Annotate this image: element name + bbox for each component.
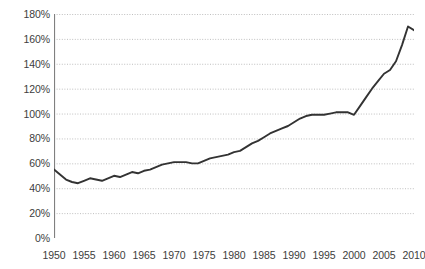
x-axis-label-1980: 1980 (223, 249, 246, 261)
x-axis-label-1960: 1960 (103, 249, 126, 261)
x-axis-label-1985: 1985 (253, 249, 276, 261)
x-axis-label-1990: 1990 (283, 249, 306, 261)
x-axis-label-2010: 2010 (403, 249, 425, 261)
x-axis-label-1975: 1975 (193, 249, 216, 261)
x-axis-label-1970: 1970 (163, 249, 186, 261)
x-axis-label-1995: 1995 (313, 249, 336, 261)
x-axis-label-2005: 2005 (373, 249, 396, 261)
x-axis-label-2000: 2000 (343, 249, 366, 261)
chart-container: 0%20%40%60%80%100%120%140%160%180% 19501… (0, 0, 425, 269)
x-axis-labels: 1950195519601965197019751980198519901995… (0, 0, 425, 269)
x-axis-label-1950: 1950 (43, 249, 66, 261)
x-axis-label-1965: 1965 (133, 249, 156, 261)
x-axis-label-1955: 1955 (73, 249, 96, 261)
